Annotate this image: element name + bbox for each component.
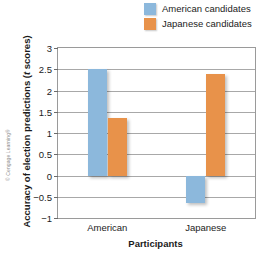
y-axis-title-italic: t — [21, 72, 32, 75]
y-axis-title-part1: Accuracy of election predictions ( — [21, 75, 32, 228]
y-axis-tick-mark — [54, 218, 58, 219]
y-axis-tick-mark — [54, 91, 58, 92]
bar — [186, 176, 205, 204]
y-axis-title: Accuracy of election predictions (t scor… — [21, 32, 32, 232]
y-axis-tick-label: 0 — [47, 170, 52, 181]
y-axis-tick-label: 2.5 — [39, 64, 52, 75]
legend-label-japanese-candidates: Japanese candidates — [162, 18, 252, 29]
y-axis-tick-label: 3 — [47, 43, 52, 54]
bar — [88, 69, 107, 175]
legend-item-american-candidates: American candidates — [144, 1, 264, 16]
chart-legend: American candidates Japanese candidates — [144, 1, 264, 31]
y-axis-tick-mark — [54, 112, 58, 113]
legend-label-american-candidates: American candidates — [162, 3, 251, 14]
chart-figure: © Cengage Learning® Accuracy of election… — [0, 0, 264, 259]
y-axis-tick-mark — [54, 154, 58, 155]
y-axis-tick-mark — [54, 48, 58, 49]
y-axis-tick-label: 1 — [47, 128, 52, 139]
gridline — [58, 176, 255, 177]
x-axis-category-label: American — [87, 222, 127, 233]
y-axis-tick-mark — [54, 197, 58, 198]
y-axis-tick-label: 2 — [47, 85, 52, 96]
bar — [108, 118, 127, 175]
y-axis-tick-label: −0.5 — [33, 191, 52, 202]
bar — [206, 74, 225, 176]
gridline — [58, 197, 255, 198]
y-axis-tick-mark — [54, 69, 58, 70]
plot-area: 32.521.510.50−0.5−1AmericanJapanese — [57, 47, 256, 219]
legend-item-japanese-candidates: Japanese candidates — [144, 16, 264, 31]
copyright-credit: © Cengage Learning® — [5, 123, 11, 187]
y-axis-tick-label: 0.5 — [39, 149, 52, 160]
y-axis-title-part2: scores) — [21, 35, 32, 71]
y-axis-tick-label: −1 — [41, 213, 52, 224]
y-axis-tick-label: 1.5 — [39, 106, 52, 117]
legend-swatch-japanese-candidates — [144, 18, 156, 30]
y-axis-tick-mark — [54, 176, 58, 177]
legend-swatch-american-candidates — [144, 3, 156, 15]
x-axis-category-label: Japanese — [185, 222, 226, 233]
y-axis-tick-mark — [54, 133, 58, 134]
x-axis-title: Participants — [57, 238, 254, 249]
